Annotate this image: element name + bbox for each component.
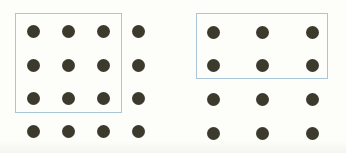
right-array-dot <box>306 93 319 106</box>
left-array-dot <box>62 25 75 38</box>
left-array-dot <box>27 125 40 138</box>
right-array-dot <box>306 26 319 39</box>
left-array-dot <box>132 25 145 38</box>
left-array-dot <box>97 25 110 38</box>
right-array-dot <box>306 127 319 140</box>
right-array-dot <box>207 59 220 72</box>
dot-array-figure <box>0 0 346 153</box>
right-array-dot <box>256 26 269 39</box>
right-array-dot <box>256 93 269 106</box>
left-array-dot <box>132 125 145 138</box>
right-array-dot <box>256 127 269 140</box>
left-array-dot <box>97 92 110 105</box>
left-array-dot <box>62 125 75 138</box>
left-array-dot <box>132 59 145 72</box>
left-array-dot <box>97 59 110 72</box>
right-array-dot <box>256 59 269 72</box>
left-array-dot <box>62 92 75 105</box>
right-array-dot <box>207 127 220 140</box>
right-array-dot <box>207 93 220 106</box>
left-array-dot <box>27 25 40 38</box>
left-array-dot <box>27 59 40 72</box>
left-array-dot <box>132 92 145 105</box>
left-array-dot <box>97 125 110 138</box>
left-array-dot <box>27 92 40 105</box>
right-array-dot <box>306 59 319 72</box>
right-array-dot <box>207 26 220 39</box>
left-array-dot <box>62 59 75 72</box>
